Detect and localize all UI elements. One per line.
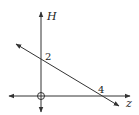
h-intercept-label: 2 xyxy=(45,51,51,62)
linear-function-line xyxy=(16,44,119,106)
graph-diagram: H z 2 4 xyxy=(0,0,139,115)
h-axis-label: H xyxy=(46,10,57,23)
z-intercept-label: 4 xyxy=(98,84,104,95)
z-axis-label: z xyxy=(125,97,132,110)
